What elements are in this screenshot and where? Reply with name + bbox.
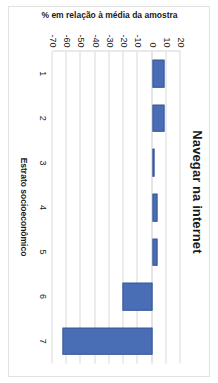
y-axis-tick-label: -10 — [132, 13, 142, 47]
plot-area: 20100-10-20-30-40-50-60-70 1234567 — [52, 50, 180, 363]
x-axis-tick-label: 2 — [37, 115, 47, 120]
bar-slot: 3 — [52, 140, 180, 185]
bar-series: 1234567 — [52, 51, 180, 363]
x-axis-tick-label: 7 — [37, 338, 47, 343]
y-axis-tick-label: 0 — [147, 13, 157, 47]
bar-slot: 5 — [52, 229, 180, 274]
bar-slot: 1 — [52, 51, 180, 96]
bar-slot: 7 — [52, 318, 180, 363]
bar — [152, 149, 155, 177]
y-axis-tick-label: 20 — [175, 13, 185, 47]
x-axis-tick-label: 5 — [37, 249, 47, 254]
bar — [152, 238, 158, 266]
y-axis-tick-label: -50 — [75, 13, 85, 47]
bar — [62, 327, 152, 355]
chart-screenshot: Navegar na internet % em relação à média… — [0, 0, 218, 383]
chart-frame: Navegar na internet % em relação à média… — [8, 6, 210, 377]
y-axis-tick-label: -70 — [47, 13, 57, 47]
y-axis-tick-label: -20 — [118, 13, 128, 47]
bar-slot: 6 — [52, 274, 180, 319]
x-axis-tick-label: 4 — [37, 204, 47, 209]
bar — [152, 59, 165, 87]
bar-slot: 4 — [52, 185, 180, 230]
bar — [152, 104, 165, 132]
x-axis-tick-label: 3 — [37, 160, 47, 165]
chart-title: Navegar na internet — [189, 6, 204, 377]
y-axis-tick-label: 10 — [161, 13, 171, 47]
x-axis-title: Estrato socioeconômico — [18, 50, 28, 363]
bar — [122, 282, 152, 310]
bar — [152, 193, 158, 221]
y-axis-tick-label: -40 — [90, 13, 100, 47]
x-axis-tick-label: 1 — [37, 71, 47, 76]
bar-slot: 2 — [52, 96, 180, 141]
y-axis-tick-label: -30 — [104, 13, 114, 47]
x-axis-tick-label: 6 — [37, 294, 47, 299]
chart-rotated-stage: Navegar na internet % em relação à média… — [8, 6, 210, 377]
y-axis-tick-label: -60 — [61, 13, 71, 47]
